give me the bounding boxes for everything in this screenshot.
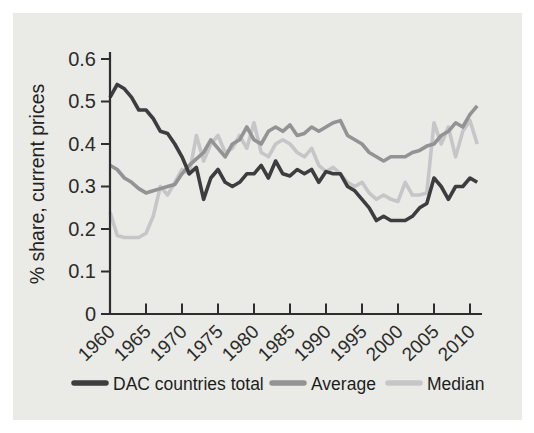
x-tick-label: 1970 xyxy=(146,321,191,365)
chart-svg: 00.10.20.30.40.50.6 19601965197019751980… xyxy=(0,0,534,433)
x-tick-label: 1995 xyxy=(326,321,371,365)
x-tick-label: 1980 xyxy=(218,321,263,365)
x-tick-label: 1960 xyxy=(74,321,119,365)
legend-label-median: Median xyxy=(427,374,484,394)
y-tick-label: 0 xyxy=(85,303,96,325)
y-axis-label: % share, current prices xyxy=(26,84,48,285)
x-tick-label: 1975 xyxy=(182,321,227,365)
series-group xyxy=(110,85,477,238)
legend-label-dac-countries-total: DAC countries total xyxy=(113,374,264,394)
y-tick-label: 0.1 xyxy=(68,260,96,282)
x-tick-label: 2010 xyxy=(434,321,479,365)
legend: DAC countries total Average Median xyxy=(74,374,484,394)
x-axis-ticks: 1960196519701975198019851990199520002005… xyxy=(74,304,479,366)
y-tick-label: 0.6 xyxy=(68,48,96,70)
y-tick-label: 0.4 xyxy=(68,133,96,155)
x-tick-label: 1985 xyxy=(254,321,299,365)
y-tick-label: 0.2 xyxy=(68,218,96,240)
x-tick-label: 2000 xyxy=(362,321,407,365)
y-tick-label: 0.5 xyxy=(68,90,96,112)
x-tick-label: 1990 xyxy=(290,321,335,365)
x-tick-label: 1965 xyxy=(110,321,155,365)
y-tick-label: 0.3 xyxy=(68,175,96,197)
y-axis-ticks: 00.10.20.30.40.50.6 xyxy=(68,48,110,325)
series-line-dac-countries-total xyxy=(110,85,477,221)
series-line-median xyxy=(110,121,477,238)
legend-label-average: Average xyxy=(311,374,376,394)
x-tick-label: 2005 xyxy=(398,321,443,365)
